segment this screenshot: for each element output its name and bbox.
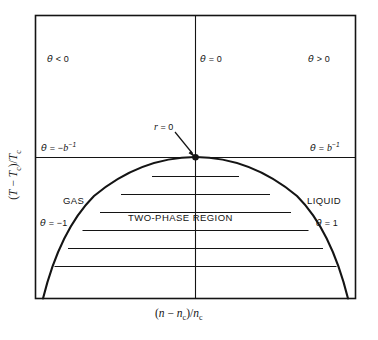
x-axis-label: (n − nc)/nc xyxy=(155,308,203,322)
y-axis-label-wrapper: (T − Tc)/Tc xyxy=(4,120,26,230)
theta-plus-one-label: θ = 1 xyxy=(316,218,338,228)
theta-minus-one-label: θ = −1 xyxy=(40,218,68,228)
theta-minus-b-inverse-label: θ = −b−1 xyxy=(41,142,76,153)
critical-point-marker xyxy=(192,154,199,161)
y-axis-var-T: T xyxy=(7,189,19,195)
theta-zero-label: θ = 0 xyxy=(200,54,222,64)
y-axis-var-Tc: T xyxy=(7,171,19,177)
phase-diagram-canvas xyxy=(0,0,378,340)
liquid-label: LIQUID xyxy=(307,196,341,206)
y-axis-label: (T − Tc)/Tc xyxy=(7,150,22,199)
critical-point-arrow xyxy=(175,132,196,158)
exponent-minus-one: −1 xyxy=(69,141,77,148)
gas-label: GAS xyxy=(63,196,84,206)
y-axis-var-Tc-denom: T xyxy=(7,154,19,160)
phase-diagram-figure: θ < 0 θ = 0 θ > 0 θ = −b−1 θ = b−1 r = 0… xyxy=(0,0,378,340)
two-phase-region-label: TWO-PHASE REGION xyxy=(128,213,233,223)
critical-point-label: r = 0 xyxy=(154,122,173,132)
x-axis-var-n: n xyxy=(159,307,165,319)
theta-negative-label: θ < 0 xyxy=(47,54,69,64)
theta-plus-b-inverse-label: θ = b−1 xyxy=(310,142,340,153)
theta-positive-label: θ > 0 xyxy=(308,54,330,64)
exponent-minus-one: −1 xyxy=(332,141,340,148)
